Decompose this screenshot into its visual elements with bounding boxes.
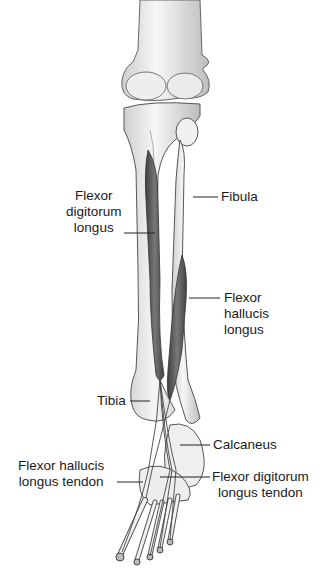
label-calcaneus: Calcaneus [213,437,277,453]
femur [122,0,209,101]
label-flexor-digitorum-longus-tendon: Flexor digitorum longus tendon [212,469,309,501]
label-fibula: Fibula [221,189,258,205]
label-line: Flexor [66,188,122,204]
label-line: longus tendon [18,474,104,490]
label-line: longus [66,220,122,236]
label-line: Flexor [224,290,269,306]
label-flexor-hallucis-longus-tendon: Flexor hallucis longus tendon [18,458,104,490]
label-line: longus [224,322,269,338]
label-line: hallucis [224,306,269,322]
label-flexor-digitorum-longus: Flexor digitorum longus [66,188,122,236]
anatomy-figure: Flexor digitorum longus Fibula Flexor ha… [0,0,334,583]
label-flexor-hallucis-longus: Flexor hallucis longus [224,290,269,338]
label-line: Flexor hallucis [18,458,104,474]
label-line: digitorum [66,204,122,220]
label-tibia: Tibia [97,393,126,409]
label-line: Flexor digitorum [212,469,309,485]
label-line: longus tendon [212,485,309,501]
